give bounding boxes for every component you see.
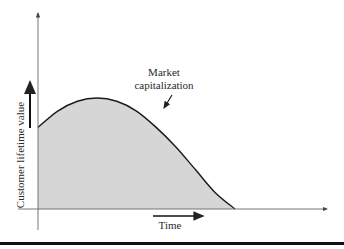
annotation-line-2: capitalization: [134, 79, 194, 91]
bottom-rule: [0, 242, 344, 245]
area-fill: [38, 98, 235, 209]
diagram: Customer lifetime value Time Market capi…: [0, 0, 344, 249]
annotation-arrow-icon: [164, 95, 172, 108]
annotation-line-1: Market: [148, 66, 180, 78]
y-axis-label: Customer lifetime value: [14, 102, 26, 208]
x-axis-label: Time: [159, 219, 182, 231]
